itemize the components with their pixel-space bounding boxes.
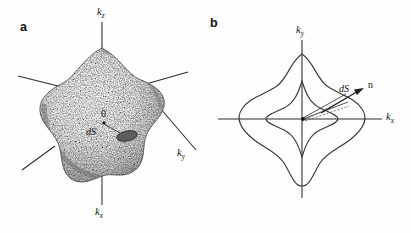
panel-b-wedge [301, 94, 349, 121]
panel-b-ky-label: ky [296, 25, 304, 38]
panel-b-origin-dot [301, 117, 305, 121]
axis-line-upper-left [18, 76, 58, 86]
panel-a-ds-label: dS [86, 127, 96, 137]
panel-b-ds-label: dS [339, 84, 349, 94]
axis-line-upper-right [146, 72, 188, 84]
panel-a-label: a [20, 21, 27, 34]
panel-a-kx-label: kx [95, 207, 103, 220]
panel-a-ky-label: ky [177, 148, 185, 161]
panel-b-normal-label: n [368, 80, 373, 90]
panel-b-kx-label: kx [386, 112, 394, 125]
panel-a: a [0, 0, 205, 233]
panel-b-axes [218, 40, 382, 198]
figure-root: a [0, 0, 411, 233]
panel-a-origin-label: 0 [101, 109, 106, 119]
panel-a-kz-label: kz [97, 7, 104, 20]
panel-b-label: b [210, 17, 218, 30]
panel-b: b [196, 0, 411, 233]
axis-line-lower-left [22, 146, 55, 170]
ky-axis-line-right [160, 108, 196, 150]
